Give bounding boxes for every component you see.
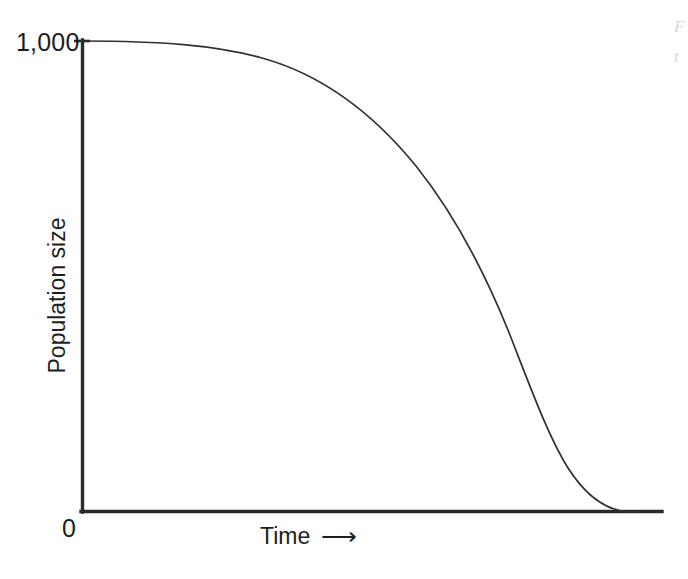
chart-canvas xyxy=(0,0,688,579)
margin-caption-fragment-line-1: F xyxy=(674,14,688,40)
population-decline-figure: 1,000 0 Population size Time ⟶ F t xyxy=(0,0,688,579)
y-axis-zero-tick-label: 0 xyxy=(62,516,76,541)
y-axis-title: Population size xyxy=(46,206,69,386)
margin-caption-fragment-line-2: t xyxy=(674,44,688,70)
right-arrow-icon: ⟶ xyxy=(321,524,357,549)
population-decline-curve xyxy=(82,41,640,512)
y-axis-top-tick-label: 1,000 xyxy=(16,30,80,55)
x-axis-title-group: Time ⟶ xyxy=(260,524,357,549)
x-axis-title-label: Time xyxy=(260,525,310,548)
